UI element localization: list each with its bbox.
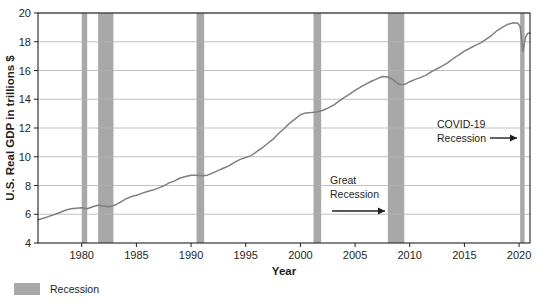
legend-swatch-recession: [14, 283, 40, 295]
great-recession-line-2: Recession: [330, 188, 379, 200]
covid-recession-line-2: Recession: [437, 132, 486, 144]
y-axis-title: U.S. Real GDP in trillions $: [4, 55, 16, 201]
gdp-recession-chart: 198019851990199520002005201020152020 468…: [0, 0, 545, 304]
legend: Recession: [14, 283, 99, 295]
labels-layer: U.S. Real GDP in trillions $ Year Great …: [0, 0, 545, 304]
legend-label-recession: Recession: [50, 283, 99, 295]
x-axis-title: Year: [272, 265, 297, 277]
annotation-great-recession: Great Recession: [330, 174, 385, 215]
covid-recession-arrow-icon: [490, 135, 517, 142]
covid-recession-line-1: COVID-19: [437, 118, 486, 130]
great-recession-arrow-icon: [332, 208, 385, 215]
annotation-covid-recession: COVID-19 Recession: [437, 118, 517, 144]
great-recession-line-1: Great: [330, 174, 356, 186]
